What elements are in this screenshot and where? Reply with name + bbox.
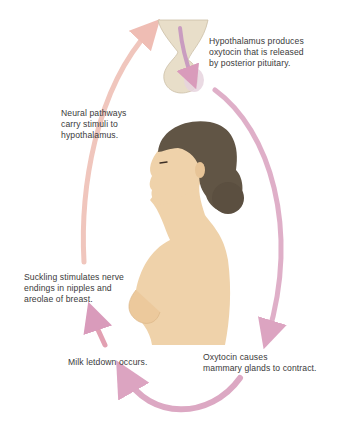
label-hypothalamus: Hypothalamus produces oxytocin that is r…	[209, 36, 304, 69]
label-suckling: Suckling stimulates nerve endings in nip…	[24, 272, 124, 305]
contraction-arrow	[125, 376, 240, 409]
label-milk-letdown: Milk letdown occurs.	[68, 357, 147, 368]
pituitary-gland-illustration	[158, 20, 208, 93]
suckling-arrow	[93, 316, 105, 345]
label-neural-pathways: Neural pathways carry stimuli to hypotha…	[61, 108, 127, 141]
neural-pathway-arrow	[83, 30, 150, 262]
woman-profile-illustration	[129, 121, 244, 345]
label-oxytocin-contraction: Oxytocin causes mammary glands to contra…	[203, 352, 317, 374]
